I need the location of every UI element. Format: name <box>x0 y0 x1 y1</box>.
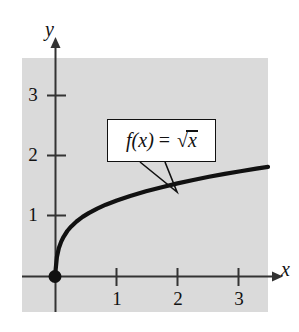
y-tick-label-1: 1 <box>23 204 43 226</box>
x-tick-label-2: 2 <box>168 288 188 310</box>
sqrt-curve <box>55 167 268 276</box>
x-tick-label-3: 3 <box>229 288 249 310</box>
y-tick-label-3: 3 <box>23 84 43 106</box>
graph-drawing <box>0 0 299 332</box>
equals-sign: = <box>154 129 175 151</box>
radicand: x <box>188 129 197 151</box>
radical-overbar <box>186 130 198 132</box>
origin-endpoint-dot <box>49 270 62 283</box>
function-graph-figure: f(x) = √x y x 1 2 3 1 2 3 <box>0 0 299 332</box>
function-argument: (x) <box>132 129 154 151</box>
radical-symbol: √ <box>177 129 188 151</box>
function-label-callout: f(x) = √x <box>107 119 216 162</box>
x-axis-label: x <box>281 258 290 281</box>
function-label-text: f(x) = √x <box>126 129 197 152</box>
y-axis-label: y <box>45 18 54 41</box>
x-tick-label-1: 1 <box>107 288 127 310</box>
y-tick-label-2: 2 <box>23 144 43 166</box>
radical-group: √x <box>175 129 197 152</box>
